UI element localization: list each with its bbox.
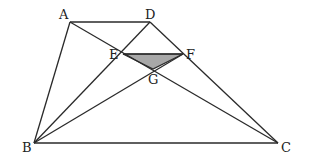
label-d: D (145, 7, 155, 22)
label-e: E (109, 47, 119, 62)
label-a: A (58, 7, 69, 22)
segment-dc (150, 22, 278, 143)
label-f: F (186, 47, 195, 62)
label-c: C (281, 140, 291, 155)
segment-ac (70, 22, 278, 143)
shaded-triangle-efg (123, 54, 183, 69)
label-g: G (148, 72, 158, 87)
label-b: B (22, 140, 32, 155)
trapezoid-diagram: A D E F G B C (0, 0, 309, 160)
